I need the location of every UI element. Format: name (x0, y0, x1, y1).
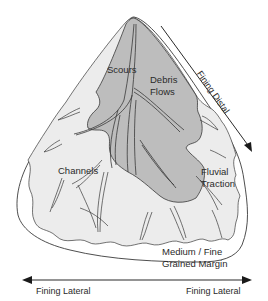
label-scours: Scours (107, 65, 137, 75)
label-debris-flows-line2: Flows (150, 87, 175, 97)
fining-lateral-arrowhead-right (242, 276, 252, 284)
fining-distal-arrowhead (244, 142, 252, 152)
label-fluvial-line2: Traction (201, 179, 235, 189)
label-debris-flows-line1: Debris (150, 75, 177, 85)
label-fluvial-line1: Fluvial (201, 167, 228, 177)
label-channels: Channels (58, 166, 98, 176)
alluvial-fan-diagram (0, 0, 268, 301)
label-fining-lateral-left: Fining Lateral (36, 286, 91, 296)
label-margin-line2: Grained Margin (162, 259, 227, 269)
label-margin-line1: Medium / Fine (162, 247, 222, 257)
label-fining-lateral-right: Fining Lateral (186, 286, 241, 296)
fining-lateral-arrowhead-left (22, 276, 32, 284)
